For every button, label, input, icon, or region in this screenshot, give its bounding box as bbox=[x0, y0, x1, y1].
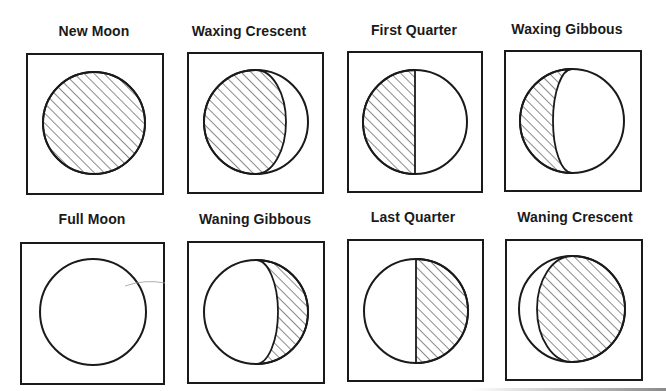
phase-panel-new-moon bbox=[27, 54, 163, 194]
moon-phases-diagram: New Moon Waxing Crescent First Quarter W… bbox=[0, 0, 666, 391]
phase-panel-full-moon bbox=[21, 243, 164, 384]
label-last-quarter: Last Quarter bbox=[371, 209, 455, 225]
label-full-moon: Full Moon bbox=[59, 211, 126, 227]
phase-panel-last-quarter bbox=[348, 240, 483, 381]
phase-panel-waxing-gibbous bbox=[505, 51, 641, 191]
label-first-quarter: First Quarter bbox=[371, 22, 457, 38]
phase-panel-waning-gibbous bbox=[188, 242, 324, 383]
label-waning-crescent: Waning Crescent bbox=[517, 209, 632, 225]
phase-panel-waxing-crescent bbox=[188, 53, 323, 193]
panel-frame bbox=[21, 243, 164, 384]
phase-panel-first-quarter bbox=[348, 52, 482, 192]
label-waxing-crescent: Waxing Crescent bbox=[192, 23, 307, 39]
label-waning-gibbous: Waning Gibbous bbox=[199, 211, 311, 227]
moon-phases-canvas bbox=[0, 0, 666, 391]
label-waxing-gibbous: Waxing Gibbous bbox=[511, 21, 622, 37]
label-new-moon: New Moon bbox=[59, 23, 130, 39]
phase-panel-waning-crescent bbox=[506, 240, 642, 380]
